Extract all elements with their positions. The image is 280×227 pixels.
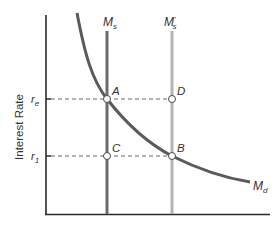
money-demand-label: Md <box>253 179 268 195</box>
money-supply-new-label: M's <box>164 15 177 31</box>
money-demand-curve <box>77 13 250 182</box>
point-label-c: C <box>112 142 121 154</box>
point-b <box>169 153 176 160</box>
tick-label-re: re <box>31 93 40 108</box>
point-label-d: D <box>177 85 185 97</box>
point-c <box>104 153 111 160</box>
tick-label-r1: r1 <box>31 150 39 165</box>
point-label-a: A <box>111 85 120 97</box>
money-supply-label: Ms <box>103 15 117 31</box>
money-market-diagram: Interest Rate re r1 Ms M's Md A D C B <box>0 0 280 227</box>
point-label-b: B <box>177 142 185 154</box>
point-a <box>104 96 111 103</box>
y-axis-label: Interest Rate <box>13 94 25 160</box>
point-d <box>169 96 176 103</box>
